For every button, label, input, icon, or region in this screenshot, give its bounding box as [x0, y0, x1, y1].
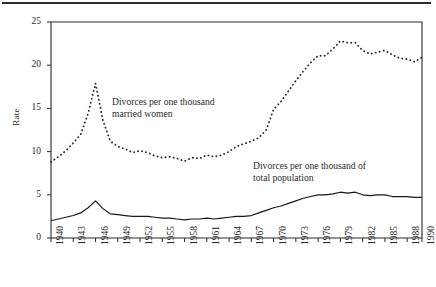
- y-tick-label: 25: [19, 16, 41, 26]
- series-line-total-population: [51, 192, 422, 221]
- x-tick-label: 1967: [255, 226, 265, 245]
- x-tick-label: 1985: [389, 226, 399, 245]
- x-tick-label: 1964: [233, 226, 243, 245]
- y-tick-label: 0: [19, 232, 41, 242]
- x-tick-label: 1973: [300, 226, 310, 245]
- x-tick-label: 1958: [189, 226, 199, 245]
- annotation-total-population: Divorces per one thousand of total popul…: [253, 160, 366, 183]
- x-tick-label: 1982: [367, 226, 377, 245]
- x-tick-label: 1952: [144, 226, 154, 245]
- y-tick-label: 15: [19, 102, 41, 112]
- y-tick-label: 5: [19, 189, 41, 199]
- x-tick-label: 1955: [166, 226, 176, 245]
- x-tick-label: 1946: [100, 226, 110, 245]
- annotation-married-women: Divorces per one thousand married women: [112, 96, 215, 119]
- series-line-married-women: [51, 41, 422, 162]
- x-tick-label: 1961: [211, 226, 221, 245]
- x-tick-label: 1940: [55, 226, 65, 245]
- x-tick-label: 1976: [322, 226, 332, 245]
- plot-frame: [51, 22, 422, 238]
- x-tick-label: 1990: [426, 226, 436, 245]
- x-tick-label: 1970: [278, 226, 288, 245]
- x-tick-label: 1949: [122, 226, 132, 245]
- y-tick-label: 10: [19, 146, 41, 156]
- x-tick-label: 1988: [411, 226, 421, 245]
- y-tick-label: 20: [19, 59, 41, 69]
- x-tick-label: 1979: [344, 226, 354, 245]
- x-tick-label: 1943: [77, 226, 87, 245]
